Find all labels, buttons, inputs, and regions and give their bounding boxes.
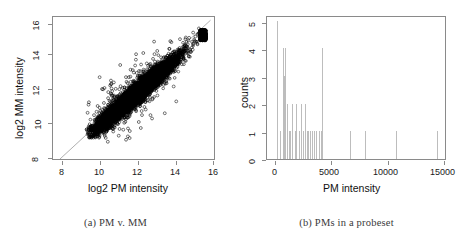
bar-8700: [365, 131, 366, 159]
panel-b-y-tick-3: 3: [248, 77, 257, 82]
panel-b-y-tick-4: 4: [248, 49, 257, 54]
bar-2800: [299, 131, 300, 159]
panel-a-x-axis-title: log2 PM intensity: [88, 183, 168, 194]
panel-pm-vs-mm: log2 MM intensity 8 10 12 14 16 8 10 12 …: [0, 0, 231, 200]
bar-11400: [396, 131, 397, 159]
panel-a-plot-area: [52, 16, 215, 160]
figure-row: log2 MM intensity 8 10 12 14 16 8 10 12 …: [0, 0, 462, 200]
panel-a-y-axis-title: log2 MM intensity: [14, 57, 25, 139]
panel-a-x-tickmark-10: [100, 161, 101, 165]
panel-a-y-tick-12: 12: [32, 85, 41, 95]
bar-4550: [319, 131, 320, 159]
panel-b-x-tick-15000: 15000: [430, 168, 455, 177]
bar-2250: [292, 104, 293, 159]
bar-4350: [316, 131, 317, 159]
panel-b-y-tick-2: 2: [248, 104, 257, 109]
panel-b-y-tick-1: 1: [248, 132, 257, 137]
panel-b-x-tickmark-5000: [331, 161, 332, 165]
panel-b-x-tick-0: 0: [272, 168, 277, 177]
bar-4900: [322, 48, 323, 159]
bar-7300: [350, 131, 351, 159]
panel-b-plot-area: [266, 16, 446, 160]
panel-a-x-tick-12: 12: [132, 168, 142, 177]
panel-b-y-tick-0: 0: [248, 159, 257, 164]
panel-b-x-axis-title: PM intensity: [323, 183, 380, 194]
caption-panel-a: (a) PM v. MM: [0, 206, 231, 240]
bar-2050: [290, 131, 291, 159]
panel-a-x-tick-14: 14: [170, 168, 180, 177]
panel-a-x-tick-16: 16: [208, 168, 218, 177]
panel-b-y-tickmark-0: [262, 160, 266, 161]
panel-b-x-tickmark-10000: [388, 161, 389, 165]
bar-2600: [296, 104, 297, 159]
panel-b-x-tick-10000: 10000: [373, 168, 398, 177]
bar-3950: [312, 131, 313, 159]
panel-b-x-tickmark-0: [275, 161, 276, 165]
panel-a-y-tick-10: 10: [34, 119, 43, 129]
panel-a-x-tick-10: 10: [94, 168, 104, 177]
panel-b-x-tickmark-15000: [444, 161, 445, 165]
panel-a-x-tickmark-8: [62, 161, 63, 165]
panel-b-y-tick-5: 5: [248, 22, 257, 27]
caption-panel-b: (b) PMs in a probeset: [231, 206, 462, 240]
bar-1150: [280, 131, 281, 159]
panel-a-y-tick-14: 14: [32, 50, 41, 60]
panel-a-x-tick-8: 8: [59, 168, 64, 177]
bar-4150: [314, 131, 315, 159]
panel-a-x-tickmark-16: [213, 161, 214, 165]
bar-3000: [301, 104, 302, 159]
panel-a-x-tickmark-14: [176, 161, 177, 165]
panel-a-y-tick-8: 8: [31, 157, 40, 162]
panel-a-y-tick-16: 16: [32, 20, 41, 30]
panel-a-x-tickmark-12: [138, 161, 139, 165]
panel-a-scatter-svg: [53, 17, 214, 159]
panel-b-bar-layer: [267, 17, 445, 159]
panel-b-x-tick-5000: 5000: [319, 168, 339, 177]
bar-15000: [437, 131, 438, 159]
bar-900: [277, 21, 278, 159]
panel-a-point-cloud: [85, 27, 207, 143]
panel-pms-in-probeset: counts 0 1 2 3 4 5 0 5000 10000 15000 PM…: [231, 0, 462, 200]
